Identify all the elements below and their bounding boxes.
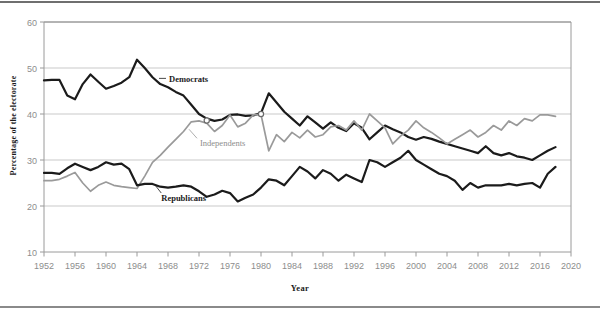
y-axis-tick-labels-group: 102030405060 [27,18,44,258]
x-axis-ticks-group: 1952195619601964196819721976198019841988… [34,252,581,271]
gridlines-group [44,22,571,206]
x-tick-label-2016: 2016 [530,261,550,271]
y-tick-label-60: 60 [27,18,37,28]
series-label-democrats: Democrats [169,74,209,84]
series-line-republicans [44,151,556,202]
x-tick-label-1968: 1968 [158,261,178,271]
x-tick-label-1980: 1980 [251,261,271,271]
y-tick-label-50: 50 [27,64,37,74]
x-tick-label-1956: 1956 [65,261,85,271]
x-tick-label-2000: 2000 [406,261,426,271]
x-tick-label-1960: 1960 [96,261,116,271]
series-paths-group [44,60,556,202]
crossing-marker-2 [258,111,263,116]
annotation-leader-independents [189,129,197,138]
series-label-republicans: Republicans [161,193,207,203]
y-tick-label-10: 10 [27,248,37,258]
x-tick-label-2020: 2020 [561,261,581,271]
x-tick-label-1984: 1984 [282,261,302,271]
plot-frame [44,22,571,252]
x-tick-label-1964: 1964 [127,261,147,271]
x-tick-label-2012: 2012 [499,261,519,271]
series-line-democrats [44,60,556,160]
crossing-marker-1 [204,118,209,123]
x-tick-label-1952: 1952 [34,261,54,271]
chart-container: Percentage of the electorate Year 195219… [0,0,600,309]
y-tick-label-20: 20 [27,202,37,212]
x-tick-label-1992: 1992 [344,261,364,271]
series-label-independents: Independents [200,138,245,148]
y-tick-label-40: 40 [27,110,37,120]
x-tick-label-1972: 1972 [189,261,209,271]
y-tick-label-30: 30 [27,156,37,166]
x-tick-label-1996: 1996 [375,261,395,271]
x-tick-label-2008: 2008 [468,261,488,271]
line-chart-plot: 1952195619601964196819721976198019841988… [0,0,600,309]
x-tick-label-1988: 1988 [313,261,333,271]
x-tick-label-1976: 1976 [220,261,240,271]
x-tick-label-2004: 2004 [437,261,457,271]
series-annotations-group: DemocratsIndependentsRepublicans [154,74,245,203]
